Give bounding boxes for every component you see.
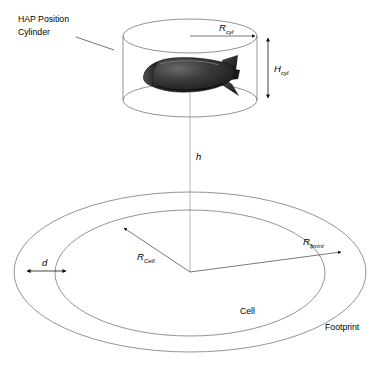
- footprint-label: Footprint: [325, 322, 360, 332]
- r-cell-arrow: [124, 228, 190, 272]
- r-fprint-label: Rfprint: [303, 236, 324, 249]
- airship-group: [144, 55, 240, 96]
- h-cyl-dimension-group: Hcyl: [268, 38, 289, 98]
- r-cyl-dimension-group: Rcyl: [190, 22, 255, 36]
- hap-label-line1: HAP Position: [18, 14, 69, 24]
- r-cyl-label: Rcyl: [219, 22, 234, 35]
- altitude-label: h: [196, 151, 201, 162]
- r-fprint-subscript: fprint: [310, 242, 324, 249]
- hap-label-leader-line: [76, 37, 114, 50]
- hap-label-group: HAP Position Cylinder: [18, 14, 114, 50]
- r-fprint-arrow: [190, 252, 341, 272]
- cell-label: Cell: [240, 306, 255, 316]
- r-cyl-subscript: cyl: [226, 28, 234, 35]
- hap-label-line2: Cylinder: [18, 27, 50, 37]
- h-cyl-label: Hcyl: [274, 63, 289, 76]
- r-cell-dimension-group: RCell: [124, 228, 190, 272]
- altitude-group: h: [190, 93, 201, 272]
- r-cell-subscript: Cell: [144, 257, 155, 264]
- r-fprint-dimension-group: Rfprint: [190, 236, 341, 272]
- hap-footprint-diagram: HAP Position Cylinder Rcyl Hcyl h: [0, 0, 379, 373]
- diagram-canvas: HAP Position Cylinder Rcyl Hcyl h: [0, 0, 379, 373]
- r-cell-label: RCell: [137, 251, 155, 264]
- h-cyl-subscript: cyl: [281, 69, 289, 76]
- d-dimension-group: d: [27, 257, 66, 271]
- d-label: d: [42, 257, 48, 268]
